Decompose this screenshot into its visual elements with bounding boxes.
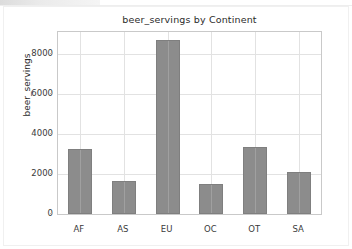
y-tick-mark [50,213,53,214]
bar-center-line [299,173,300,213]
x-tick-label-sa: SA [292,224,303,234]
bar-oc[interactable] [199,184,223,214]
bar-center-line [80,150,81,213]
y-tick-mark [50,173,53,174]
bars-layer [58,32,321,214]
bar-center-line [168,41,169,213]
bar-center-line [124,182,125,213]
y-tick-label: 4000 [9,128,53,138]
bar-eu[interactable] [156,40,180,214]
y-axis-ticks: 02000400060008000 [5,31,53,215]
bar-center-line [255,148,256,213]
bar-center-line [211,185,212,213]
x-tick-label-af: AF [74,224,85,234]
bar-af[interactable] [68,149,92,214]
bar-ot[interactable] [243,147,267,214]
bar-sa[interactable] [287,172,311,214]
y-tick-mark [50,133,53,134]
y-tick-label: 6000 [9,88,53,98]
chart-figure: beer_servings by Continent beer_servings… [0,0,352,249]
chart-title: beer_servings by Continent [57,14,322,25]
x-tick-label-eu: EU [161,224,173,234]
y-tick-label: 2000 [9,168,53,178]
x-tick-label-ot: OT [248,224,260,234]
bar-as[interactable] [112,181,136,214]
x-axis-ticks: AFASEUOCOTSA [57,216,322,234]
y-tick-mark [50,53,53,54]
y-tick-label: 0 [9,208,53,218]
y-tick-mark [50,93,53,94]
plot-area [57,31,322,215]
x-tick-label-as: AS [117,224,128,234]
y-tick-label: 8000 [9,48,53,58]
x-tick-label-oc: OC [204,224,217,234]
